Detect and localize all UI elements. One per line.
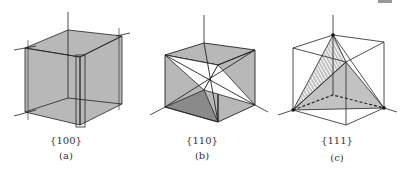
cube-110 <box>150 15 268 122</box>
panel-a-caption: (a) <box>36 150 96 161</box>
panel-b-caption: (b) <box>172 150 232 161</box>
axis-right <box>384 108 397 112</box>
cube-bottom-l <box>293 110 346 125</box>
cube-100 <box>14 12 130 127</box>
vertex-top <box>331 33 335 37</box>
cube-bottom-r <box>346 108 384 125</box>
panel-c-diagram <box>260 0 401 135</box>
axis-left <box>150 107 165 115</box>
panel-a-diagram <box>0 0 140 135</box>
panel-b-plane-label: {110} <box>172 135 232 146</box>
axis-left <box>278 110 293 115</box>
front-face <box>25 48 80 125</box>
panel-c-caption: (c) <box>307 152 367 163</box>
panel-c-plane-label: {111} <box>307 135 367 146</box>
cube-111 <box>278 15 397 125</box>
panel-b-diagram <box>130 0 270 135</box>
axis-right <box>116 33 130 36</box>
panel-a-plane-label: {100} <box>36 135 96 146</box>
